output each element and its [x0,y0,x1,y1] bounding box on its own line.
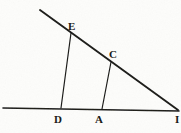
vertex-label-c: C [109,49,117,60]
figure-canvas [0,0,181,133]
vertex-label-d: D [54,114,62,125]
vertex-label-b: I [175,114,179,125]
geometry-figure: E C D A I [0,0,181,133]
vertex-label-a: A [95,114,103,125]
vertex-label-e: E [68,21,75,32]
figure-background [0,0,181,133]
